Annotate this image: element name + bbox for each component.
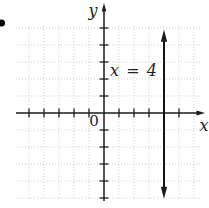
equation-label: x = 4 (110, 61, 158, 80)
graph-figure: y x 0 x = 4 (0, 0, 209, 208)
graph-line-top-arrowhead (161, 30, 167, 42)
coordinate-plane: y x 0 x = 4 (0, 0, 209, 208)
y-axis-label: y (87, 1, 98, 20)
list-bullet-icon (0, 20, 5, 27)
x-axis-arrowhead (197, 111, 206, 116)
plot-layer (16, 3, 205, 201)
origin-label: 0 (89, 112, 99, 130)
x-axis-label: x (199, 116, 208, 135)
y-axis-arrowhead (102, 3, 107, 12)
graph-line-bottom-arrowhead (161, 187, 167, 199)
